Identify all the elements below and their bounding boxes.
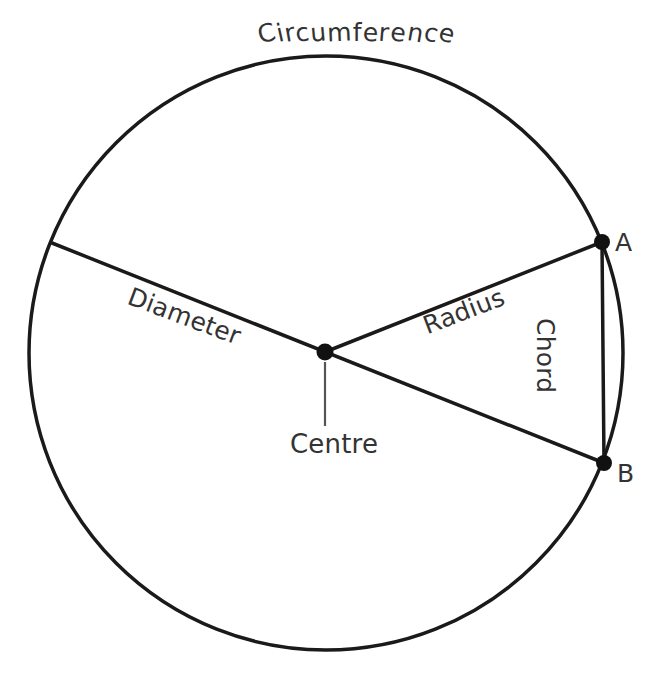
point-a-label: A <box>615 228 632 257</box>
point-b-label: B <box>617 459 634 488</box>
circumference-label: Circumference <box>263 18 449 47</box>
chord-line <box>602 242 604 463</box>
circle-diagram: Circumference Diameter Radius Chord Cent… <box>0 0 646 679</box>
circumference-label-char: f <box>353 18 362 47</box>
centre-label: Centre <box>290 429 378 459</box>
point-a-dot <box>594 234 610 250</box>
circumference-label-char: m <box>327 17 353 47</box>
point-b-dot <box>596 455 612 471</box>
chord-label: Chord <box>531 318 560 393</box>
circumference-label-char: e <box>362 18 379 48</box>
centre-point-dot <box>317 344 334 361</box>
circumference-label-char: u <box>309 17 328 47</box>
